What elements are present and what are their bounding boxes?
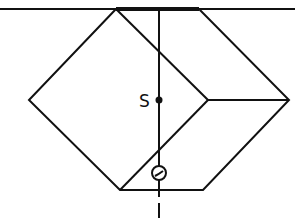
center-of-gravity-point: [156, 97, 163, 104]
pivot-circle-icon: [152, 166, 166, 180]
inner-edge: [116, 9, 208, 100]
center-of-gravity-label: S: [139, 91, 150, 111]
crystal-balance-diagram: S: [0, 0, 295, 223]
